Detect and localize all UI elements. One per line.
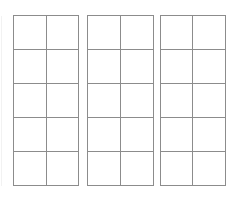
grid-cell[interactable] bbox=[46, 84, 79, 118]
grid-cell[interactable] bbox=[193, 16, 226, 50]
table-row[interactable] bbox=[160, 118, 225, 152]
grid-cell[interactable] bbox=[160, 50, 193, 84]
grid-cell[interactable] bbox=[160, 152, 193, 186]
grid-cell[interactable] bbox=[193, 118, 226, 152]
grid-cell[interactable] bbox=[88, 118, 121, 152]
grid-cell[interactable] bbox=[120, 50, 153, 84]
grid-cell[interactable] bbox=[14, 16, 47, 50]
table-row[interactable] bbox=[160, 152, 225, 186]
grid-cell[interactable] bbox=[160, 118, 193, 152]
grid-cell[interactable] bbox=[120, 152, 153, 186]
table-row[interactable] bbox=[14, 50, 79, 84]
table-row[interactable] bbox=[14, 16, 79, 50]
table-row[interactable] bbox=[88, 84, 153, 118]
grid-table-2-body bbox=[88, 16, 153, 186]
grid-table-1-body bbox=[14, 16, 79, 186]
grid-cell[interactable] bbox=[88, 84, 121, 118]
grid-group bbox=[13, 15, 226, 187]
grid-table-1[interactable] bbox=[13, 15, 79, 186]
grid-cell[interactable] bbox=[160, 84, 193, 118]
table-row[interactable] bbox=[14, 118, 79, 152]
grid-cell[interactable] bbox=[193, 152, 226, 186]
grid-cell[interactable] bbox=[14, 50, 47, 84]
grid-cell[interactable] bbox=[46, 50, 79, 84]
grid-cell[interactable] bbox=[88, 16, 121, 50]
table-row[interactable] bbox=[160, 50, 225, 84]
table-row[interactable] bbox=[160, 16, 225, 50]
grid-cell[interactable] bbox=[88, 152, 121, 186]
table-row[interactable] bbox=[160, 84, 225, 118]
table-row[interactable] bbox=[88, 152, 153, 186]
grid-table-3-body bbox=[160, 16, 225, 186]
edge-artifact-line bbox=[1, 16, 2, 186]
grid-cell[interactable] bbox=[46, 118, 79, 152]
grid-spacer bbox=[79, 15, 87, 16]
table-row[interactable] bbox=[14, 84, 79, 118]
grid-table-3[interactable] bbox=[160, 15, 226, 186]
grid-table-2[interactable] bbox=[87, 15, 153, 186]
grid-cell[interactable] bbox=[120, 118, 153, 152]
table-row[interactable] bbox=[88, 16, 153, 50]
grid-cell[interactable] bbox=[46, 16, 79, 50]
grid-cell[interactable] bbox=[193, 50, 226, 84]
grid-cell[interactable] bbox=[120, 16, 153, 50]
grid-cell[interactable] bbox=[14, 84, 47, 118]
grid-cell[interactable] bbox=[160, 16, 193, 50]
table-row[interactable] bbox=[88, 118, 153, 152]
grid-cell[interactable] bbox=[88, 50, 121, 84]
table-row[interactable] bbox=[14, 152, 79, 186]
grid-cell[interactable] bbox=[14, 152, 47, 186]
page-root bbox=[0, 0, 240, 201]
table-row[interactable] bbox=[88, 50, 153, 84]
grid-cell[interactable] bbox=[120, 84, 153, 118]
grid-cell[interactable] bbox=[14, 118, 47, 152]
grid-cell[interactable] bbox=[46, 152, 79, 186]
grid-cell[interactable] bbox=[193, 84, 226, 118]
